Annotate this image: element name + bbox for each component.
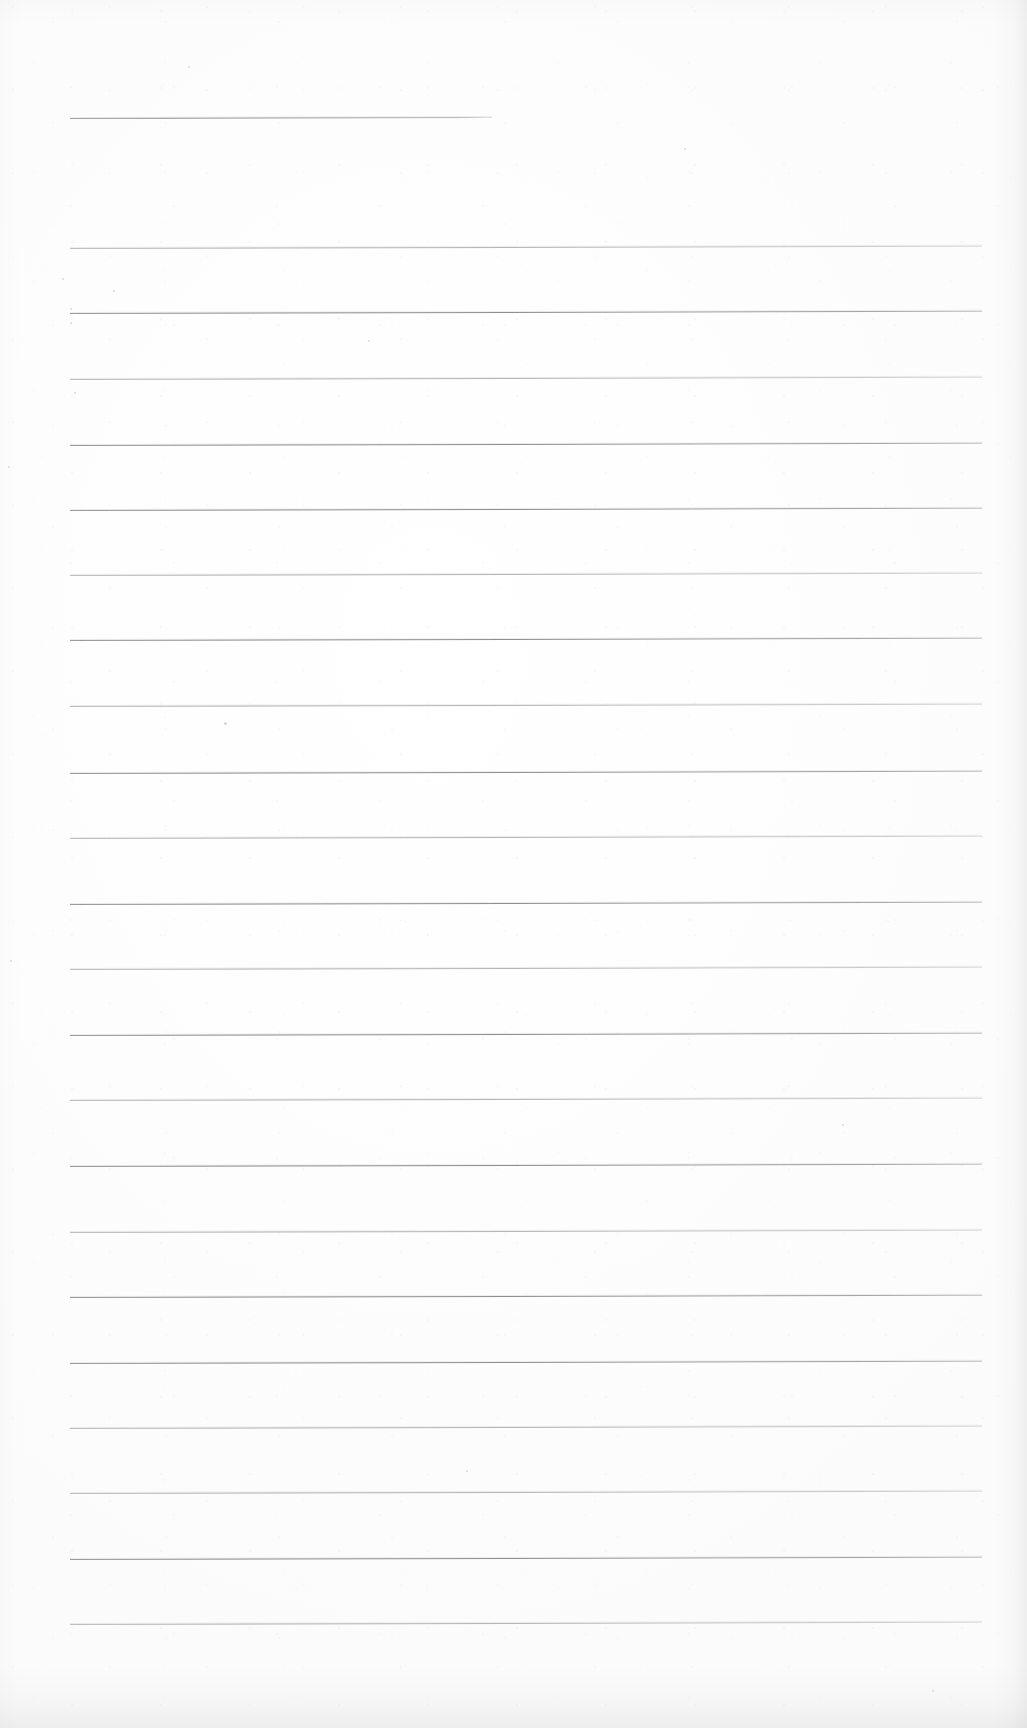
- scanned-page: [0, 0, 1027, 1728]
- paper-surface: [0, 0, 1027, 1728]
